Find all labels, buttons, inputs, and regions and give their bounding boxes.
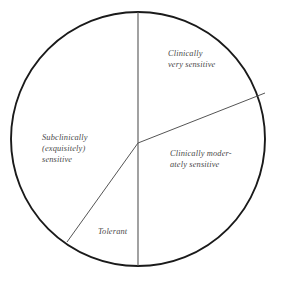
slice-label-clinically-moderately-sensitive: Clinically moder- ately sensitive [170, 148, 252, 170]
slice-label-clinically-very-sensitive: Clinically very sensitive [168, 48, 244, 70]
pie-chart-figure: Clinically very sensitive Clinically mod… [0, 0, 288, 288]
slice-label-tolerant: Tolerant [98, 226, 146, 237]
slice-label-subclinically-exquisitely-sensitive: Subclinically (exquisitely) sensitive [42, 132, 122, 166]
